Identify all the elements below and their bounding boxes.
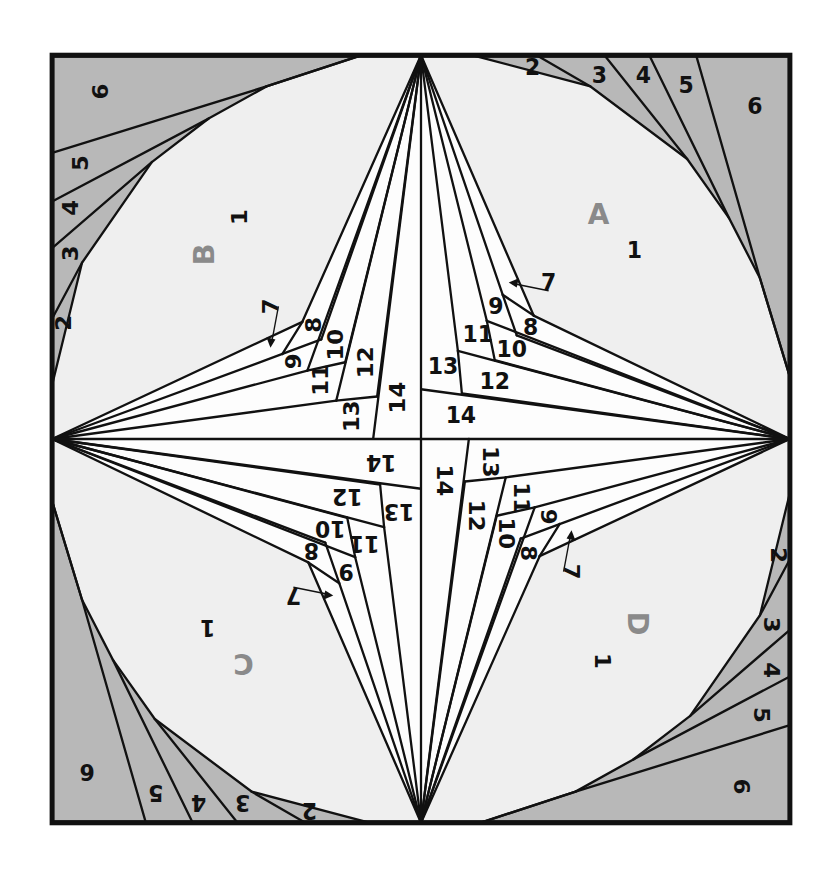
section-b: B 1 2 3 4 5 6 7 8 9 10 11 12 13 14 (51, 55, 421, 439)
piece-label-14: 14 (366, 450, 397, 477)
piece-label-3: 3 (759, 617, 784, 633)
piece-label-4: 4 (636, 61, 651, 88)
section-c-label: C (233, 647, 253, 681)
piece-label-11: 11 (509, 482, 534, 514)
piece-label-11: 11 (349, 531, 380, 558)
piece-label-13: 13 (479, 446, 504, 478)
piece-label-9: 9 (339, 559, 354, 586)
piece-label-9: 9 (280, 353, 305, 369)
piece-label-11: 11 (307, 364, 332, 396)
piece-label-6: 6 (729, 778, 754, 794)
piece-label-13: 13 (384, 499, 415, 526)
section-b-label: B (189, 243, 221, 265)
piece-label-1: 1 (226, 209, 251, 225)
piece-label-6: 6 (747, 92, 762, 119)
piece-label-13: 13 (338, 400, 363, 432)
piece-label-5: 5 (68, 155, 93, 171)
piece-label-9: 9 (536, 509, 561, 525)
piece-label-11: 11 (463, 321, 494, 348)
piece-label-9: 9 (488, 293, 503, 320)
piece-label-7: 7 (257, 298, 282, 314)
section-a-label: A (588, 198, 610, 232)
section-a: A 1 2 3 4 5 6 7 8 9 10 11 12 13 14 (421, 54, 790, 439)
piece-label-2: 2 (51, 315, 76, 331)
piece-label-3: 3 (592, 61, 607, 88)
piece-label-14: 14 (432, 465, 457, 497)
piece-label-10: 10 (496, 336, 527, 363)
piece-label-12: 12 (352, 346, 377, 378)
piece-label-13: 13 (428, 353, 459, 380)
piece-label-2: 2 (525, 54, 540, 81)
piece-label-6: 6 (88, 84, 113, 100)
piece-label-7: 7 (286, 583, 301, 610)
piece-label-12: 12 (332, 484, 363, 511)
piece-label-14: 14 (385, 382, 410, 414)
piece-label-1: 1 (590, 653, 615, 669)
piece-label-7: 7 (559, 564, 584, 580)
piece-label-4: 4 (759, 662, 784, 678)
piece-label-2: 2 (766, 547, 791, 563)
piece-label-8: 8 (304, 538, 319, 565)
piece-label-1: 1 (627, 237, 642, 264)
piece-label-1: 1 (200, 615, 215, 642)
piece-label-12: 12 (480, 367, 511, 394)
pattern-diagram: A 1 2 3 4 5 6 7 8 9 10 11 12 13 14 B 1 2… (0, 0, 837, 872)
piece-label-3: 3 (58, 245, 83, 261)
piece-label-5: 5 (679, 72, 694, 99)
piece-label-14: 14 (446, 401, 477, 428)
piece-label-5: 5 (148, 780, 163, 807)
piece-label-12: 12 (465, 500, 490, 532)
piece-label-7: 7 (541, 269, 556, 296)
piece-label-5: 5 (749, 707, 774, 723)
section-d-label: D (621, 612, 653, 636)
piece-label-2: 2 (302, 797, 317, 824)
piece-label-4: 4 (58, 200, 83, 216)
section-c: C 1 2 3 4 5 6 7 8 9 10 11 12 13 14 (52, 439, 421, 824)
piece-label-10: 10 (322, 329, 347, 361)
piece-label-10: 10 (315, 515, 346, 542)
piece-label-6: 6 (79, 759, 94, 786)
piece-label-3: 3 (235, 790, 250, 817)
piece-label-8: 8 (516, 545, 541, 561)
piece-label-10: 10 (494, 518, 519, 550)
section-d: D 1 2 3 4 5 6 7 8 9 10 11 12 13 14 (421, 439, 791, 823)
piece-label-4: 4 (191, 790, 206, 817)
